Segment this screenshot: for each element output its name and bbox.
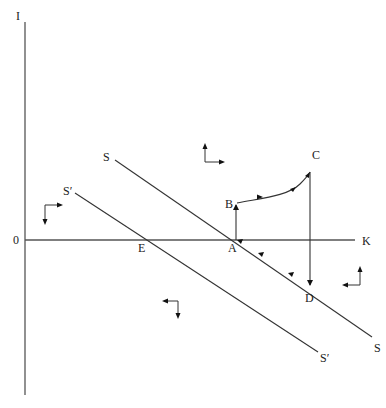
curve-SS-end-label: S — [374, 341, 381, 355]
axis-label-K: K — [362, 234, 371, 248]
curve-SprimeSprime-end-label: S′ — [320, 351, 330, 365]
direction-icon-left-down — [162, 299, 181, 320]
curve-SprimeSprime — [75, 193, 318, 352]
arrow-D-to-A-2 — [258, 252, 264, 257]
point-label-A: A — [228, 241, 237, 255]
point-label-D: D — [305, 291, 314, 305]
phase-diagram: I K 0 S S S′ S′ A B C D E — [0, 0, 386, 408]
arrow-D-to-A-1 — [288, 272, 294, 277]
point-label-C: C — [312, 148, 320, 162]
curve-SS — [115, 160, 372, 337]
curve-SprimeSprime-start-label: S′ — [63, 184, 73, 198]
axis-label-I: I — [16, 9, 20, 23]
point-label-E: E — [138, 241, 145, 255]
curve-SS-start-label: S — [103, 150, 110, 164]
path-B-to-C — [237, 172, 310, 203]
direction-icon-right-down — [43, 203, 64, 226]
point-label-B: B — [225, 197, 233, 211]
arrow-B-to-C-2 — [290, 187, 296, 192]
direction-icon-up-left — [342, 266, 363, 288]
direction-icon-up-right — [203, 143, 226, 165]
origin-label: 0 — [13, 233, 19, 247]
